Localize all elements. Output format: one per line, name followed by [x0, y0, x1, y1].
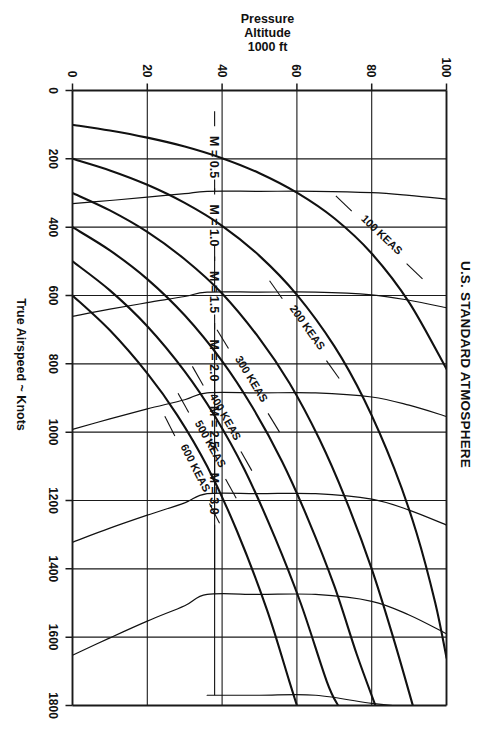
y-tick-label: 100	[439, 57, 453, 77]
y-axis-title-line-2: Altitude	[244, 25, 291, 39]
series-curve-m-3-0	[207, 694, 394, 705]
curve-label-leader	[268, 413, 279, 432]
mach-label-text: M = 3.0	[207, 472, 221, 514]
mach-label-text: M = 1.0	[207, 204, 221, 246]
curve-label-100-keas: 100 KEAS	[335, 195, 422, 278]
curve-label-leader	[178, 393, 189, 412]
curve-layer	[72, 124, 446, 705]
curve-label-text: 100 KEAS	[359, 212, 405, 257]
mach-label-text: M = 2.5	[207, 406, 221, 448]
curve-label-leader	[240, 451, 251, 470]
y-tick-label: 80	[364, 64, 378, 78]
rotated-chart-wrapper: 0200400600800100012001400160018000204060…	[0, 0, 482, 729]
y-tick-label: 0	[65, 70, 79, 77]
y-axis-title: Pressure Altitude 1000 ft	[240, 11, 294, 53]
chart-title: U.S. STANDARD ATMOSPHERE	[457, 260, 472, 467]
series-curve-m-0-5	[72, 191, 446, 203]
curve-label-leader	[326, 360, 339, 378]
y-axis-title-line-1: Pressure	[240, 11, 294, 25]
curve-label-leader	[335, 195, 351, 210]
x-axis-title: True Airspeed ~ Knots	[13, 298, 27, 431]
x-tick-label: 400	[45, 217, 59, 237]
x-tick-label: 600	[45, 285, 59, 305]
curve-label-leader	[406, 263, 422, 278]
curve-label-m-3-0: M = 3.0	[207, 447, 221, 695]
x-tick-label: 1800	[45, 692, 59, 719]
curve-label-text: 300 KEAS	[233, 353, 270, 404]
mach-label-text: M = 2.0	[207, 339, 221, 381]
series-curve-300-keas	[72, 193, 412, 706]
mach-label-text: M = 0.5	[207, 136, 221, 178]
x-tick-label: 1400	[45, 555, 59, 582]
y-axis-title-line-3: 1000 ft	[247, 39, 287, 53]
y-tick-label: 20	[139, 64, 153, 78]
x-tick-label: 1600	[45, 623, 59, 650]
x-tick-label: 1000	[45, 418, 59, 445]
y-tick-label: 60	[289, 64, 303, 78]
x-tick-label: 1200	[45, 487, 59, 514]
figure-page: 0200400600800100012001400160018000204060…	[0, 0, 482, 729]
x-tick-label: 200	[45, 148, 59, 168]
curve-label-m-0-5: M = 0.5	[207, 111, 221, 191]
x-tick-label: 0	[45, 87, 59, 94]
x-tick-label: 800	[45, 353, 59, 373]
series-curve-m-1-0	[72, 291, 446, 316]
true-airspeed-chart: 0200400600800100012001400160018000204060…	[0, 0, 482, 729]
mach-label-text: M = 1.5	[207, 271, 221, 313]
tick-layer: 0200400600800100012001400160018000204060…	[45, 57, 453, 719]
y-tick-label: 40	[214, 64, 228, 78]
curve-label-leader	[225, 479, 236, 498]
